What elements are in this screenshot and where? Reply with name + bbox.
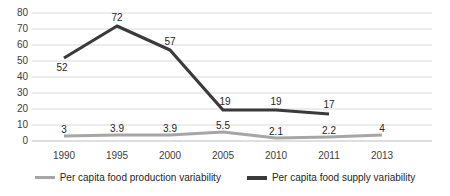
y-axis-tick-40: 40 [2,71,28,82]
x-axis-tick-1990: 1990 [38,150,90,161]
data-label-supply-1995: 72 [97,12,137,23]
y-axis-tick-60: 60 [2,39,28,50]
data-label-supply-1990: 52 [42,62,82,73]
y-axis-tick-80: 80 [2,7,28,18]
y-axis-tick-50: 50 [2,55,28,66]
legend-label-production: Per capita food production variability [60,172,221,183]
data-label-production-1990: 3 [44,124,84,135]
x-axis-tick-1995: 1995 [91,150,143,161]
data-label-supply-2000: 57 [150,36,190,47]
x-axis-tick-2011: 2011 [303,150,355,161]
x-axis-tick-2013: 2013 [356,150,408,161]
y-axis-tick-0: 0 [2,135,28,146]
data-label-production-2013: 4 [362,123,402,134]
legend-swatch-icon-production [35,176,55,179]
y-axis-tick-10: 10 [2,119,28,130]
chart-legend: Per capita food production variability P… [0,172,450,183]
y-axis-tick-20: 20 [2,103,28,114]
gridlines [32,13,432,125]
legend-swatch-icon-supply [247,176,267,180]
y-axis-tick-70: 70 [2,23,28,34]
data-label-production-2011: 2.2 [309,125,349,136]
legend-label-supply: Per capita food supply variability [272,172,415,183]
data-label-production-2000: 3.9 [150,123,190,134]
x-axis-tick-2010: 2010 [250,150,302,161]
line-chart: 80 70 60 50 40 30 20 10 0 1990 1995 2000… [0,0,450,196]
data-label-production-2005: 5.5 [203,120,243,131]
data-label-supply-2011: 17 [309,99,349,110]
y-axis-tick-30: 30 [2,87,28,98]
legend-item-food-production-variability[interactable]: Per capita food production variability [35,172,221,183]
x-axis-tick-2005: 2005 [197,150,249,161]
data-label-production-1995: 3.9 [97,123,137,134]
legend-item-food-supply-variability[interactable]: Per capita food supply variability [247,172,415,183]
data-label-supply-2010: 19 [256,96,296,107]
data-label-supply-2005: 19 [205,96,245,107]
x-axis-tick-2000: 2000 [144,150,196,161]
data-label-production-2010: 2.1 [256,126,296,137]
